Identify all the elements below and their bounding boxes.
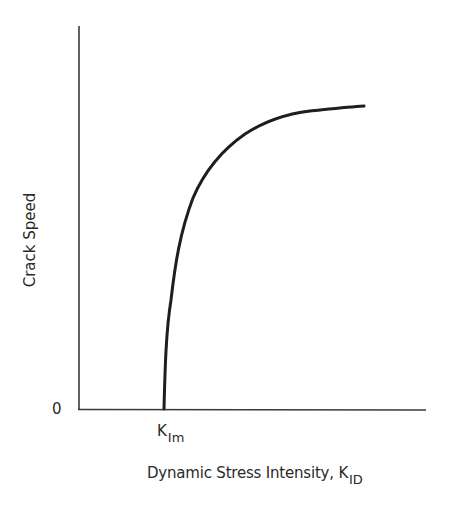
x-axis-title: Dynamic Stress Intensity, KID bbox=[147, 466, 363, 486]
k-im-tick-label: KIm bbox=[157, 424, 184, 444]
x-axis-line bbox=[78, 410, 426, 411]
y-axis-title: Crack Speed bbox=[23, 193, 38, 288]
x-axis-title-subscript: ID bbox=[349, 472, 362, 487]
k-im-main: K bbox=[157, 422, 167, 440]
y-axis-zero-tick-label: 0 bbox=[52, 402, 62, 417]
crack-speed-curve bbox=[164, 106, 364, 409]
chart-canvas bbox=[0, 0, 449, 511]
x-axis-title-main: Dynamic Stress Intensity, K bbox=[147, 464, 348, 482]
k-im-subscript: Im bbox=[168, 430, 185, 445]
